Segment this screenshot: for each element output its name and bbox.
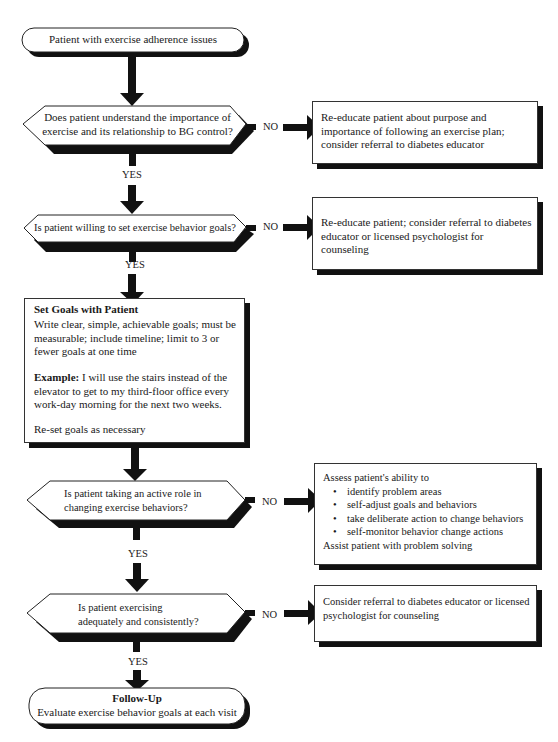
decision-4-no-label: NO: [262, 609, 277, 620]
assess-intro: Assess patient's ability to: [323, 471, 533, 485]
decision-4-line-2: adequately and consistently?: [78, 615, 238, 629]
end-title: Follow-Up: [29, 692, 245, 706]
decision-1-question: Does patient understand the importance o…: [40, 111, 235, 138]
set-goals-body: Write clear, simple, achievable goals; m…: [34, 318, 239, 359]
arrow-down: [120, 55, 144, 106]
decision-3-no-label: NO: [262, 496, 277, 507]
start-label: Patient with exercise adherence issues: [22, 33, 244, 47]
end-label: Evaluate exercise behavior goals at each…: [29, 706, 245, 720]
decision-4-question: Is patient exercising adequately and con…: [78, 601, 238, 628]
set-goals-example: Example: I will use the stairs instead o…: [34, 371, 239, 412]
decision-2-yes-label: YES: [125, 259, 145, 270]
no-action-box-2: Re-educate patient; consider referral to…: [312, 197, 538, 270]
decision-1-line-2: exercise and its relationship to BG cont…: [40, 125, 235, 139]
assess-footer: Assist patient with problem solving: [323, 539, 533, 553]
decision-3-line-2: changing exercise behaviors?: [64, 501, 234, 515]
assess-bullet: identify problem areas: [337, 485, 533, 499]
decision-1-yes-label: YES: [122, 169, 142, 180]
no-action-box-1: Re-educate patient about purpose and imp…: [312, 101, 538, 164]
assess-box: Assess patient's ability to identify pro…: [314, 463, 537, 565]
no-action-1-text: Re-educate patient about purpose and imp…: [321, 111, 533, 152]
assess-bullet-list: identify problem areas self-adjust goals…: [323, 485, 533, 539]
assess-content: Assess patient's ability to identify pro…: [323, 471, 533, 552]
set-goals-title: Set Goals with Patient: [34, 303, 239, 317]
decision-3-yes-label: YES: [128, 548, 148, 559]
example-label: Example:: [34, 371, 79, 383]
set-goals-box: Set Goals with Patient Write clear, simp…: [24, 298, 245, 443]
no-action-box-4: Consider referral to diabetes educator o…: [314, 585, 537, 642]
decision-2-no-label: NO: [263, 221, 278, 232]
decision-1-line-1: Does patient understand the importance o…: [40, 111, 235, 125]
set-goals-footer: Re-set goals as necessary: [34, 423, 239, 437]
decision-2-question: Is patient willing to set exercise behav…: [24, 221, 246, 235]
decision-3-question: Is patient taking an active role in chan…: [64, 487, 234, 514]
no-action-4-text: Consider referral to diabetes educator o…: [323, 595, 533, 622]
decision-1-no-label: NO: [263, 121, 278, 132]
decision-3-line-1: Is patient taking an active role in: [64, 487, 234, 501]
assess-bullet: self-monitor behavior change actions: [337, 525, 533, 539]
no-action-2-text: Re-educate patient; consider referral to…: [321, 216, 533, 257]
end-content: Follow-Up Evaluate exercise behavior goa…: [29, 692, 245, 719]
assess-bullet: take deliberate action to change behavio…: [337, 512, 533, 526]
assess-bullet: self-adjust goals and behaviors: [337, 498, 533, 512]
decision-4-yes-label: YES: [128, 656, 148, 667]
decision-4-line-1: Is patient exercising: [78, 601, 238, 615]
